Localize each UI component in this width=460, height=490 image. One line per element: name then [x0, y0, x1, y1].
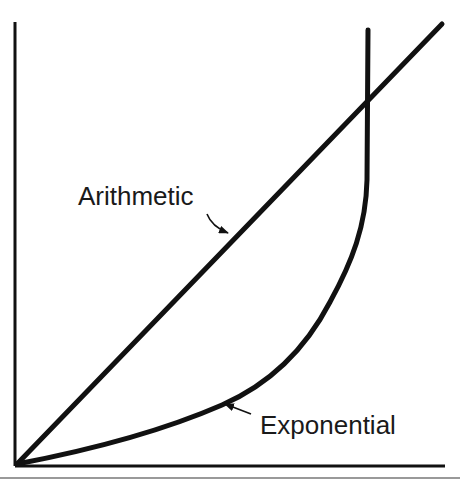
growth-comparison-diagram: Arithmetic Exponential [0, 0, 460, 490]
arithmetic-label: Arithmetic [78, 181, 194, 211]
exponential-curve [17, 30, 368, 464]
arithmetic-line [17, 24, 442, 464]
arithmetic-pointer-arrow [207, 214, 228, 233]
exponential-label: Exponential [260, 410, 396, 440]
exponential-pointer-arrow [225, 404, 251, 414]
